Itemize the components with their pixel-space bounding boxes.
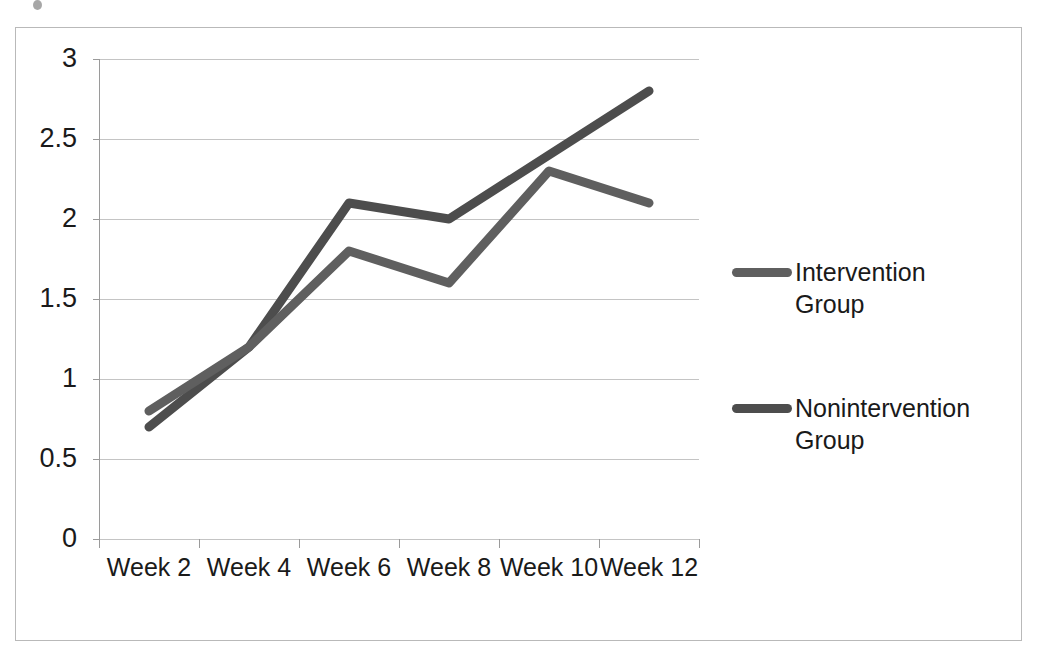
chart-frame: 32.521.510.50 Week 2Week 4Week 6Week 8We… (15, 27, 1022, 641)
chart-legend: Intervention Group Nonintervention Group (732, 256, 1017, 528)
legend-label-nonintervention: Nonintervention Group (795, 392, 1000, 456)
scan-artifact (33, 0, 42, 10)
legend-swatch-nonintervention (732, 404, 792, 413)
series-line-nonintervention (149, 91, 649, 427)
legend-entry-nonintervention[interactable]: Nonintervention Group (732, 392, 1017, 456)
legend-entry-intervention[interactable]: Intervention Group (732, 256, 1017, 320)
legend-swatch-intervention (732, 268, 792, 277)
legend-label-intervention: Intervention Group (795, 256, 1000, 320)
